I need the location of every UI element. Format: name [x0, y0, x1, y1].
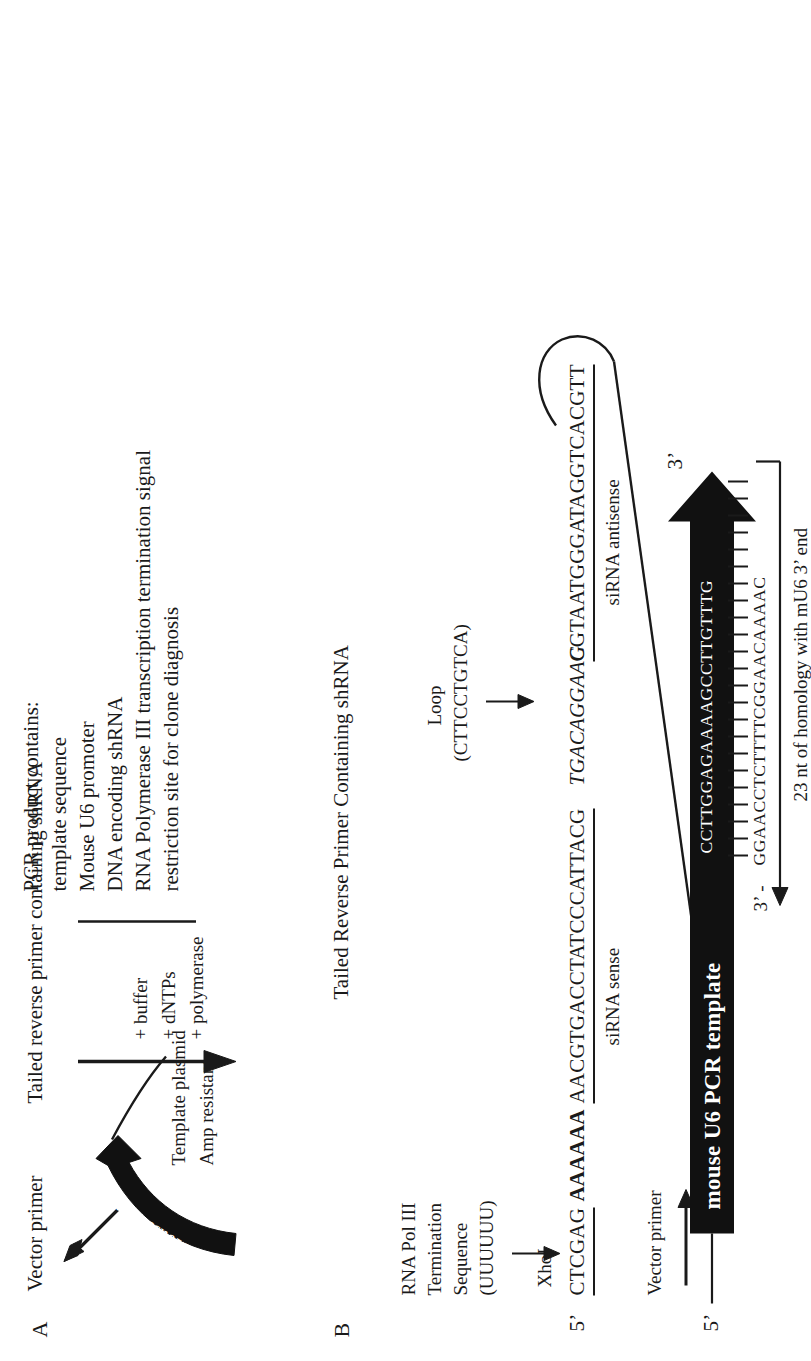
homology-arrow — [756, 461, 788, 905]
homology-label: 23 nt of homology with mU6 3’ end — [790, 527, 811, 801]
